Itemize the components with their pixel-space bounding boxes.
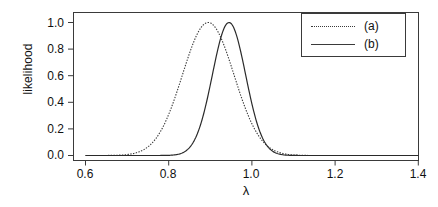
likelihood-chart-figure: likelihood 1.0 0.8 0.6 0.4 0.2 0.0 0.6 0… — [0, 0, 438, 207]
legend-label-b: (b) — [364, 37, 379, 51]
legend-line-sample-solid-icon — [311, 44, 355, 45]
legend-label-a: (a) — [364, 19, 379, 33]
legend-entry-a: (a) — [302, 18, 407, 36]
legend-entry-b: (b) — [302, 36, 407, 54]
legend-box: (a) (b) — [301, 13, 406, 57]
legend-line-sample-dotted-icon — [311, 26, 355, 27]
